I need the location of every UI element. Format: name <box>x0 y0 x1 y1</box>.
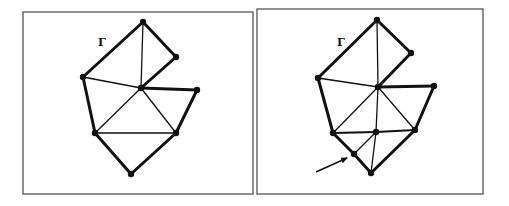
vertex-top <box>374 17 380 23</box>
right-panel-graph: Γ <box>257 9 483 194</box>
interior-edge-mid-new <box>354 132 376 154</box>
interior-edge-center-ll <box>333 87 378 133</box>
boundary-edge-rtop-center <box>378 53 411 87</box>
interior-edge-left-center <box>318 78 378 87</box>
vertex-ll <box>92 130 98 136</box>
diagram-canvas: Γ Γ <box>0 0 509 206</box>
boundary-edge-top-rtop <box>143 22 176 57</box>
boundary-edge-bottom-new <box>354 154 371 173</box>
interior-edge-center-mid <box>376 87 378 132</box>
interior-edge-center-ll <box>95 88 141 133</box>
boundary-edge-right-lr <box>176 90 197 133</box>
boundary-edge-lr-bottom <box>371 130 415 173</box>
interior-edge-center-lr <box>141 88 176 133</box>
interior-edge-ll-mid <box>333 132 376 133</box>
gamma-label: Γ <box>337 36 345 49</box>
boundary-edge-lr-bottom <box>131 133 176 174</box>
interior-edge-mid-lr <box>376 130 415 132</box>
interior-edge-left-center <box>83 77 141 88</box>
vertex-bottom <box>368 170 374 176</box>
vertex-center <box>375 84 381 90</box>
vertex-rtop <box>408 50 414 56</box>
interior-edge-top-center <box>377 20 378 87</box>
interior-edge-center-lr <box>378 87 415 130</box>
vertex-left <box>80 74 86 80</box>
vertex-lr <box>173 130 179 136</box>
vertex-right <box>431 83 437 89</box>
vertex-left <box>315 75 321 81</box>
vertex-right <box>194 87 200 93</box>
pointer-arrow-icon <box>316 158 347 172</box>
interior-edge-top-center <box>141 22 143 88</box>
gamma-label: Γ <box>98 36 106 49</box>
vertex-lr <box>412 127 418 133</box>
left-panel-graph: Γ <box>23 12 253 194</box>
boundary-edge-center-right <box>141 88 197 90</box>
boundary-edge-top-left <box>318 20 377 78</box>
boundary-edge-right-lr <box>415 86 434 130</box>
boundary-edge-ll-left <box>318 78 333 133</box>
vertex-rtop <box>173 54 179 60</box>
boundary-edge-bottom-ll <box>95 133 131 174</box>
boundary-edge-new-ll <box>333 133 354 154</box>
boundary-edge-top-left <box>83 22 143 77</box>
boundary-edge-top-rtop <box>377 20 411 53</box>
boundary-edge-rtop-center <box>141 57 176 88</box>
boundary-edge-center-right <box>378 86 434 87</box>
vertex-new <box>351 151 357 157</box>
vertex-mid <box>373 129 379 135</box>
vertex-center <box>138 85 144 91</box>
vertex-top <box>140 19 146 25</box>
boundary-edge-ll-left <box>83 77 95 133</box>
vertex-bottom <box>128 171 134 177</box>
right-panel-frame <box>257 9 483 194</box>
vertex-ll <box>330 130 336 136</box>
